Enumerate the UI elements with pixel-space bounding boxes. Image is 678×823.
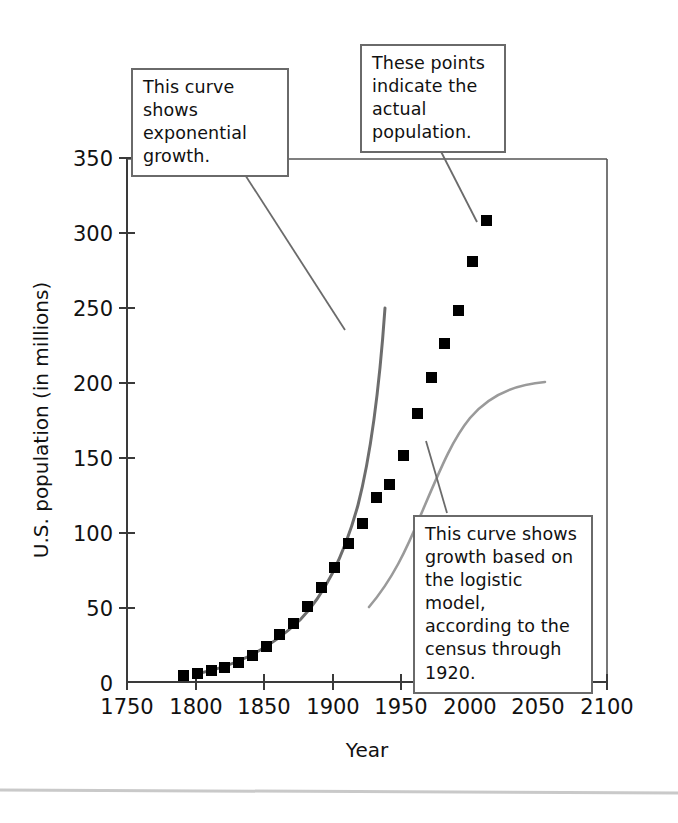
x-label-1850: 1850: [237, 695, 290, 719]
x-label-2000: 2000: [443, 695, 496, 719]
data-point: [288, 618, 299, 629]
data-point: [274, 629, 285, 640]
callout-exponential-growth: This curve shows exponential growth.: [131, 68, 289, 177]
y-label-50: 50: [86, 597, 113, 621]
data-point: [371, 492, 382, 503]
x-label-1900: 1900: [306, 695, 359, 719]
data-point: [398, 450, 409, 461]
x-label-1750: 1750: [100, 695, 153, 719]
x-label-2050: 2050: [511, 695, 564, 719]
y-label-300: 300: [73, 222, 113, 246]
data-point: [343, 538, 354, 549]
y-label-350: 350: [73, 147, 113, 171]
callout-actual-population: These points indicate the actual populat…: [360, 44, 506, 153]
y-label-100: 100: [73, 522, 113, 546]
data-point: [261, 641, 272, 652]
data-point: [439, 338, 450, 349]
data-point: [247, 650, 258, 661]
data-point: [481, 215, 492, 226]
data-point: [357, 518, 368, 529]
data-point: [192, 668, 203, 679]
data-point: [233, 657, 244, 668]
leader-line-logistic: [426, 441, 447, 513]
y-label-250: 250: [73, 297, 113, 321]
y-label-200: 200: [73, 372, 113, 396]
population-chart-svg: 350 300 250 200 150 100 50 0 1750 1800 1…: [0, 0, 678, 823]
data-point: [412, 408, 423, 419]
x-axis-title: Year: [345, 738, 389, 762]
x-axis-tick-labels: 1750 1800 1850 1900 1950 2000 2050 2100: [100, 695, 633, 719]
x-label-2100: 2100: [580, 695, 633, 719]
callout-logistic-model: This curve shows growth based on the log…: [413, 515, 593, 694]
data-point: [426, 372, 437, 383]
data-point: [219, 662, 230, 673]
data-point: [302, 601, 313, 612]
data-point: [206, 665, 217, 676]
footer-divider: [0, 790, 678, 793]
figure-canvas: 350 300 250 200 150 100 50 0 1750 1800 1…: [0, 0, 678, 823]
y-axis-title: U.S. population (in millions): [29, 282, 53, 558]
x-label-1950: 1950: [374, 695, 427, 719]
data-point: [329, 562, 340, 573]
data-point: [384, 479, 395, 490]
x-label-1800: 1800: [169, 695, 222, 719]
data-point: [316, 582, 327, 593]
y-label-0: 0: [100, 672, 113, 696]
data-point: [453, 305, 464, 316]
y-axis-tick-labels: 350 300 250 200 150 100 50 0: [73, 147, 113, 696]
data-point: [178, 670, 189, 681]
y-label-150: 150: [73, 447, 113, 471]
data-point: [467, 256, 478, 267]
